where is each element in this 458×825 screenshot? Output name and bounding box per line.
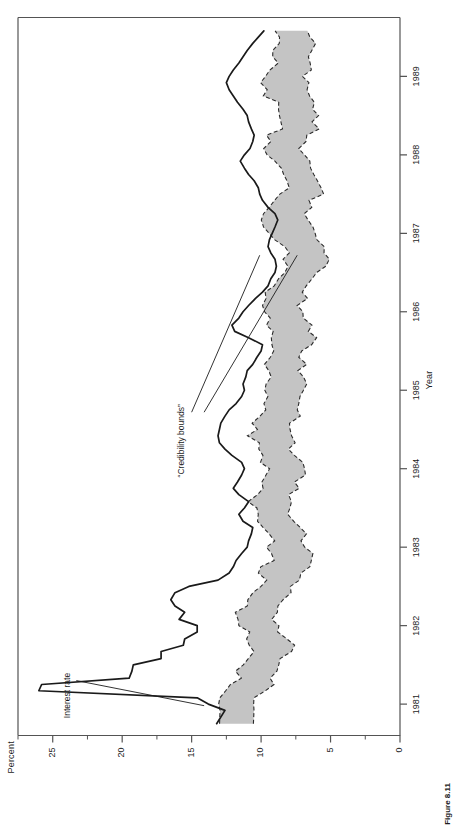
y-tick-label: 10 [255,747,265,769]
y-tick-label: 25 [47,747,57,769]
x-tick-label: 1986 [411,295,421,327]
x-tick-label: 1984 [411,452,421,484]
figure-caption-text: Figure 8.11 [443,783,452,825]
y-tick-label: 5 [325,747,335,769]
x-tick-label: 1988 [411,138,421,170]
figure-caption: Figure 8.11 [443,783,452,825]
x-axis-title: Year [424,370,434,389]
annotation-credibility-bounds: “Credibility bounds” [176,404,186,477]
x-tick-label: 1989 [411,60,421,92]
x-tick-label: 1987 [411,217,421,249]
credibility-band [219,30,330,723]
x-tick-label: 1983 [411,531,421,563]
y-tick-label: 15 [186,747,196,769]
y-tick-label: 0 [394,747,404,769]
x-tick-label: 1982 [411,609,421,641]
x-tick-label: 1985 [411,374,421,406]
x-tick-label: 1981 [411,688,421,720]
y-tick-label: 20 [116,747,126,769]
chart-axes [18,17,407,742]
annotation-interest-rate: Interest rate [62,672,72,717]
x-axis-ticks [400,76,407,704]
y-axis-title: Percent [6,741,16,773]
